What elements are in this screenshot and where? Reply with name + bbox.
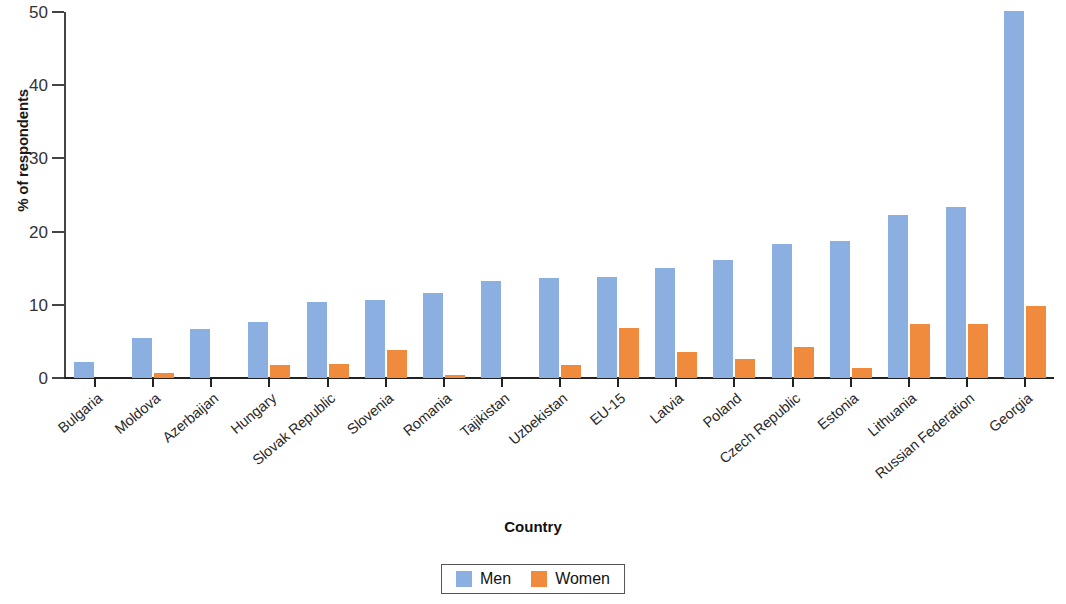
bar-men[interactable]	[481, 281, 501, 378]
bar-women[interactable]	[387, 350, 407, 378]
bar-group	[473, 12, 531, 378]
bar-group	[880, 12, 938, 378]
bar-men[interactable]	[74, 362, 94, 378]
legend-label: Women	[555, 570, 610, 588]
chart-figure: % of respondents 01020304050 BulgariaMol…	[0, 0, 1066, 604]
bar-group	[764, 12, 822, 378]
bar-group	[66, 12, 124, 378]
bar-series-container	[66, 12, 1054, 378]
bar-group	[996, 12, 1054, 378]
bar-group	[182, 12, 240, 378]
bar-men[interactable]	[655, 268, 675, 378]
bar-group	[531, 12, 589, 378]
bar-group	[299, 12, 357, 378]
legend-label: Men	[480, 570, 511, 588]
bar-women[interactable]	[445, 375, 465, 378]
x-axis-tick-label: Latvia	[647, 390, 686, 427]
y-axis-tick	[52, 11, 64, 13]
x-label-cell: Georgia	[996, 386, 1054, 504]
bar-women[interactable]	[910, 324, 930, 378]
bar-group	[124, 12, 182, 378]
bar-group	[705, 12, 763, 378]
y-axis-tick-label: 30	[12, 149, 48, 169]
x-axis-tick-label: Estonia	[814, 390, 861, 433]
bar-women[interactable]	[329, 364, 349, 378]
y-axis-tick-label: 40	[12, 76, 48, 96]
x-label-cell: Uzbekistan	[531, 386, 589, 504]
bar-women[interactable]	[735, 359, 755, 378]
legend-item[interactable]: Men	[456, 570, 511, 588]
bar-women[interactable]	[154, 373, 174, 378]
x-axis-tick-label: Poland	[700, 390, 744, 431]
y-axis-tick	[52, 377, 64, 379]
bar-women[interactable]	[968, 324, 988, 378]
y-axis-tick-label: 50	[12, 3, 48, 23]
bar-men[interactable]	[132, 338, 152, 378]
bar-women[interactable]	[270, 365, 290, 378]
bar-men[interactable]	[713, 260, 733, 378]
bar-group	[647, 12, 705, 378]
bar-group	[240, 12, 298, 378]
bar-women[interactable]	[1026, 306, 1046, 378]
x-label-cell: Czech Republic	[764, 386, 822, 504]
bar-group	[589, 12, 647, 378]
y-axis-tick	[52, 157, 64, 159]
bar-women[interactable]	[619, 328, 639, 378]
x-axis-tick-label: EU-15	[587, 390, 628, 428]
legend-item[interactable]: Women	[531, 570, 610, 588]
x-label-cell: EU-15	[589, 386, 647, 504]
bar-women[interactable]	[561, 365, 581, 378]
bar-men[interactable]	[946, 207, 966, 378]
bar-men[interactable]	[190, 329, 210, 378]
bar-men[interactable]	[423, 293, 443, 378]
x-label-cell: Bulgaria	[66, 386, 124, 504]
plot-area: 01020304050	[64, 12, 1054, 378]
bar-men[interactable]	[365, 300, 385, 378]
bar-men[interactable]	[888, 215, 908, 378]
x-label-cell: Moldova	[124, 386, 182, 504]
bar-men[interactable]	[772, 244, 792, 378]
x-axis-tick-label: Bulgaria	[55, 390, 105, 436]
bar-men[interactable]	[830, 241, 850, 378]
bar-group	[938, 12, 996, 378]
bar-women[interactable]	[677, 352, 697, 378]
bar-group	[822, 12, 880, 378]
y-axis-tick-label: 0	[12, 369, 48, 389]
x-label-cell: Azerbaijan	[182, 386, 240, 504]
x-axis-tick-labels: BulgariaMoldovaAzerbaijanHungarySlovak R…	[66, 386, 1054, 504]
y-axis-tick-label: 10	[12, 296, 48, 316]
bar-men[interactable]	[248, 322, 268, 378]
x-label-cell: Tajikistan	[473, 386, 531, 504]
x-label-cell: Russian Federation	[938, 386, 996, 504]
chart-legend: MenWomen	[441, 564, 625, 594]
legend-swatch-icon	[456, 571, 472, 587]
bar-men[interactable]	[307, 302, 327, 378]
x-label-cell: Romania	[415, 386, 473, 504]
bar-men[interactable]	[1004, 11, 1024, 378]
y-axis-tick	[52, 231, 64, 233]
legend-swatch-icon	[531, 571, 547, 587]
bar-women[interactable]	[852, 368, 872, 378]
bar-group	[357, 12, 415, 378]
x-axis-title: Country	[0, 518, 1066, 535]
y-axis-tick	[52, 304, 64, 306]
y-axis-tick-label: 20	[12, 223, 48, 243]
bar-men[interactable]	[597, 277, 617, 378]
x-label-cell: Slovenia	[357, 386, 415, 504]
bar-women[interactable]	[794, 347, 814, 378]
bar-group	[415, 12, 473, 378]
x-label-cell: Latvia	[647, 386, 705, 504]
y-axis-tick	[52, 84, 64, 86]
x-label-cell: Estonia	[822, 386, 880, 504]
x-label-cell: Slovak Republic	[299, 386, 357, 504]
bar-men[interactable]	[539, 278, 559, 378]
